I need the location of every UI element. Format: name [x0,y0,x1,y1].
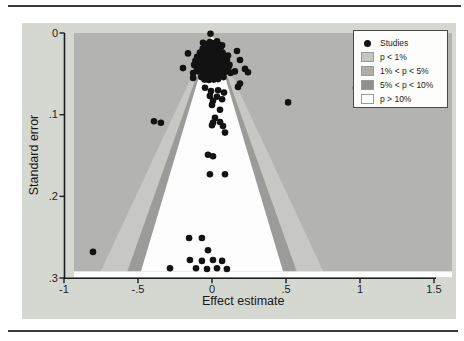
y-axis-title: Standard error [27,109,41,201]
study-dot [202,84,209,91]
bottom-rule [8,330,458,332]
studies-dot-icon [364,40,371,47]
study-dot [215,76,222,83]
study-dot [185,50,192,57]
legend-label: p < 1% [380,52,407,62]
legend-item-p-lt-1: p < 1% [361,50,447,64]
study-dot [151,118,158,125]
study-dot [221,89,228,96]
study-dot [210,153,217,160]
study-dot [90,249,97,256]
study-dot [219,96,226,103]
legend-item-studies: Studies [361,36,447,50]
bottom-white-strip [74,271,452,277]
x-tick-label: -.5 [132,283,145,296]
x-tick-label: 1 [357,283,363,296]
p-5-10-swatch-icon [361,80,374,90]
study-dot [199,258,206,265]
study-dot [222,129,229,136]
x-axis-title: Effect estimate [202,294,284,308]
study-dot [209,102,216,109]
legend-label: 1% < p < 5% [380,66,429,76]
study-dot [285,99,292,106]
study-dot [219,258,226,265]
study-dot [224,266,231,273]
study-dot [158,120,165,127]
study-dot [186,235,193,242]
legend-item-p-1-5: 1% < p < 5% [361,64,447,78]
scanned-page: 0.1.2.3-1-.50.511.5 Effect estimate Stan… [0,0,464,341]
y-tick-label: 0 [34,27,58,40]
study-dot [245,69,252,76]
study-dot [217,107,224,114]
legend-item-p-5-10: 5% < p < 10% [361,78,447,92]
study-dot [193,265,200,272]
legend-label: Studies [380,38,408,48]
study-dot [187,257,194,264]
p-lt-1-swatch-icon [361,52,374,62]
y-tick-label: .3 [34,272,58,285]
study-dot [234,48,241,55]
study-dot [209,122,216,129]
x-tick-label: -1 [59,283,69,296]
study-dot [207,171,214,178]
p-1-5-swatch-icon [361,66,374,76]
study-dot [210,257,217,264]
study-dot [204,266,211,273]
study-dot [227,70,234,77]
study-dot [199,235,206,242]
legend-label: p > 10% [380,94,411,104]
study-dot [222,171,229,178]
x-tick-label: 1.5 [426,283,441,296]
study-dot [215,87,222,94]
study-dot [214,265,221,272]
study-dot [180,65,187,72]
study-dot [235,84,242,91]
study-dot [205,247,212,254]
study-dot [207,31,214,38]
study-dot [167,265,174,272]
legend-label: 5% < p < 10% [380,80,433,90]
legend: Studies p < 1% 1% < p < 5% 5% < p < 10% … [353,30,448,108]
study-dot [237,57,244,64]
p-gt-10-swatch-icon [361,94,374,104]
legend-item-p-gt-10: p > 10% [361,92,447,106]
study-dot [220,123,227,130]
